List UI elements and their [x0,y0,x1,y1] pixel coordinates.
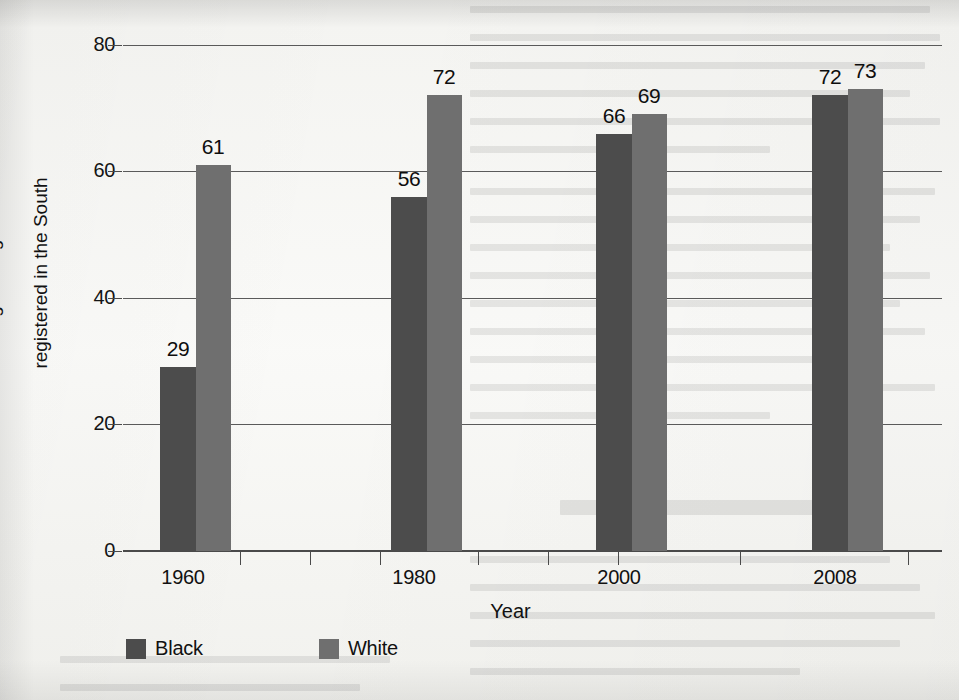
scan-shadow-top [0,0,959,28]
legend-swatch-black-icon [126,639,146,659]
bar-1980-black[interactable] [391,197,427,551]
x-tick-label-1980: 1980 [369,566,459,589]
bar-1980-white[interactable] [427,95,462,551]
x-tick-label-2000: 2000 [574,566,664,589]
legend-label-white: White [348,637,398,660]
scanned-chart-page: Percentage of eligible voters registered… [0,0,959,700]
bar-label-1960-white: 61 [183,135,243,159]
x-axis-title: Year [0,600,959,623]
bar-label-1980-black: 56 [379,167,439,191]
bar-2000-white[interactable] [632,114,667,551]
legend-item-black[interactable]: Black [126,637,203,660]
bar-label-2008-white: 73 [835,59,895,83]
bar-2008-white[interactable] [848,89,883,551]
x-tick-label-1960: 1960 [138,566,228,589]
scan-shadow-bottom [0,660,959,700]
bar-label-2000-white: 69 [619,84,679,108]
legend-swatch-white-icon [319,639,339,659]
legend-item-white[interactable]: White [319,637,398,660]
y-axis-title: Percentage of eligible voters registered… [0,38,77,508]
y-axis-title-line-1: Percentage of eligible voters [0,38,5,508]
bar-2008-black[interactable] [812,95,848,551]
y-axis-title-line-2: registered in the South [29,38,53,508]
legend-label-black: Black [155,637,203,660]
x-axis-title-text: Year [490,600,530,622]
bar-1960-black[interactable] [160,367,196,551]
gridline-80 [123,45,942,46]
plot-area: 29 61 56 72 66 69 72 73 [123,45,942,551]
bar-label-1960-black: 29 [148,337,208,361]
chart-legend: Black White [126,637,398,660]
bar-2000-black[interactable] [596,134,632,551]
x-tick-label-2008: 2008 [790,566,880,589]
bar-label-1980-white: 72 [414,65,474,89]
